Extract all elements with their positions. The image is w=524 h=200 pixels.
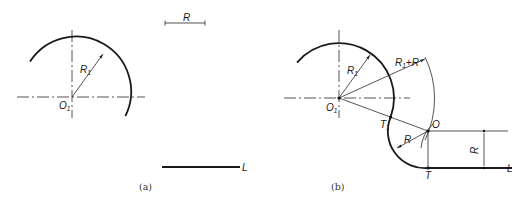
caption-a: (a) (139, 181, 152, 192)
scale-bar-label: R (183, 12, 190, 23)
radius-r1-label-b: R1 (347, 65, 358, 77)
tangent-point-t-label: T (425, 170, 432, 181)
center-o1-label-b: O1 (326, 102, 338, 114)
diagram-canvas: R1 O1 R L (a) (0, 0, 524, 200)
radius-r-arrow (397, 131, 428, 148)
point-t1 (389, 116, 392, 119)
given-arc-a (30, 37, 131, 116)
figure-b: R R1 R1+R O1 T1 O R T L (b) (284, 30, 513, 192)
radius-r1-plus-r-label: R1+R (395, 57, 419, 69)
point-o (426, 129, 429, 132)
arc-center-o-label: O (432, 119, 440, 130)
line-l-label-b: L (507, 163, 513, 174)
radius-r1-label-a: R1 (80, 64, 91, 76)
given-arc-b (297, 43, 394, 117)
point-o1-b (337, 96, 340, 99)
caption-b: (b) (331, 181, 345, 192)
line-l-label-a: L (242, 162, 248, 173)
arc-radius-r-label: R (404, 134, 411, 145)
scale-bar-r: R (165, 12, 205, 26)
figure-a: R1 O1 R L (a) (17, 12, 248, 192)
center-o1-label-a: O1 (59, 100, 71, 112)
offset-dim-label: R (469, 147, 480, 154)
